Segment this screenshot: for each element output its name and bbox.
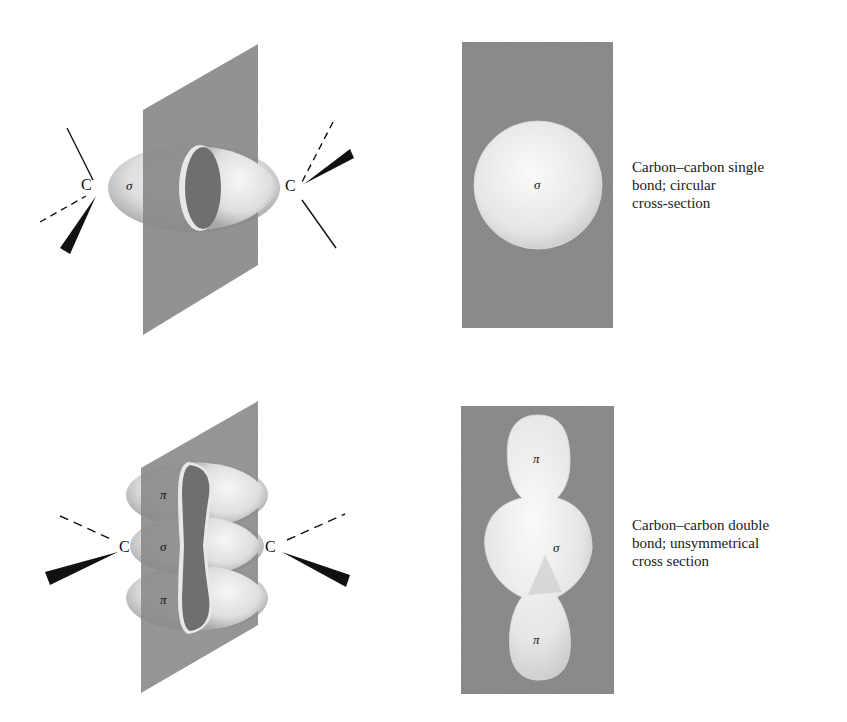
- carbon-atom-label: C: [265, 538, 276, 556]
- bond-line: [302, 200, 336, 248]
- dashed-bond: [60, 516, 113, 540]
- single-bond-caption: Carbon–carbon single bond; circular cros…: [632, 158, 764, 212]
- sigma-label: σ: [160, 539, 166, 555]
- wedge-bond: [60, 196, 96, 254]
- dashed-bond: [287, 514, 345, 540]
- pi-label: π: [160, 592, 167, 608]
- double-bond-caption: Carbon–carbon double bond; unsymmetrical…: [632, 516, 769, 570]
- wedge-bond: [45, 552, 118, 585]
- sigma-label: σ: [534, 177, 540, 193]
- dashed-bond: [40, 196, 86, 222]
- wedge-bond: [304, 149, 354, 184]
- bond-diagram-canvas: [0, 0, 847, 722]
- bond-line: [67, 128, 93, 180]
- wedge-bond: [282, 552, 350, 587]
- pi-label: π: [533, 451, 540, 467]
- sigma-label: σ: [553, 540, 559, 556]
- sigma-label: σ: [126, 178, 132, 194]
- pi-label: π: [160, 487, 167, 503]
- double-bond-perspective: [45, 401, 350, 693]
- cut-face: [185, 147, 221, 229]
- pi-label: π: [533, 632, 540, 648]
- dashed-bond: [302, 122, 333, 182]
- carbon-atom-label: C: [285, 177, 296, 195]
- carbon-atom-label: C: [81, 176, 92, 194]
- carbon-atom-label: C: [119, 538, 130, 556]
- double-bond-cross-section: [461, 406, 614, 694]
